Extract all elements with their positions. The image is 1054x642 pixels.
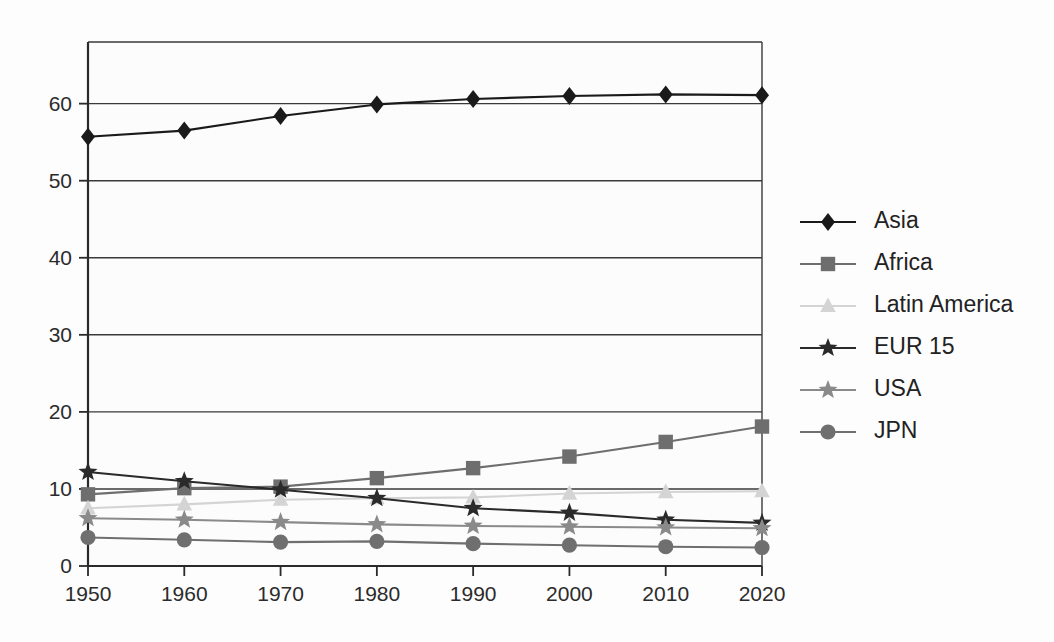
data-point-marker: [659, 435, 673, 449]
data-point-marker: [273, 535, 288, 550]
y-tick-label: 0: [60, 554, 72, 577]
x-tick-label: 1970: [257, 582, 304, 605]
legend-item-jpn[interactable]: JPN: [800, 417, 917, 443]
data-point-marker: [562, 538, 577, 553]
data-point-marker: [80, 530, 95, 545]
legend-item-eur-15[interactable]: EUR 15: [800, 333, 955, 359]
legend-item-asia[interactable]: Asia: [800, 207, 919, 233]
data-point-marker: [177, 532, 192, 547]
legend-item-usa[interactable]: USA: [800, 375, 922, 401]
legend-label: Africa: [874, 249, 933, 275]
data-point-marker: [562, 449, 576, 463]
data-point-marker: [818, 338, 837, 356]
legend-label: USA: [874, 375, 922, 401]
x-tick-label: 1990: [450, 582, 497, 605]
x-tick-label: 2010: [642, 582, 689, 605]
legend-item-africa[interactable]: Africa: [800, 249, 933, 275]
data-point-marker: [370, 471, 384, 485]
y-axis-ticks: 0102030405060: [49, 92, 88, 577]
data-point-marker: [658, 539, 673, 554]
y-tick-label: 20: [49, 400, 72, 423]
chart-legend: AsiaAfricaLatin AmericaEUR 15USAJPN: [800, 207, 1014, 443]
x-tick-label: 2020: [739, 582, 786, 605]
x-tick-label: 2000: [546, 582, 593, 605]
y-tick-label: 50: [49, 169, 72, 192]
data-point-marker: [754, 540, 769, 555]
data-point-marker: [821, 257, 835, 271]
data-point-marker: [820, 424, 835, 439]
data-point-marker: [81, 487, 95, 501]
x-tick-label: 1950: [65, 582, 112, 605]
data-point-marker: [821, 213, 835, 231]
x-tick-label: 1960: [161, 582, 208, 605]
y-tick-label: 10: [49, 477, 72, 500]
data-point-marker: [755, 419, 769, 433]
y-tick-label: 30: [49, 323, 72, 346]
legend-label: EUR 15: [874, 333, 955, 359]
data-point-marker: [369, 534, 384, 549]
x-tick-label: 1980: [353, 582, 400, 605]
y-tick-label: 60: [49, 92, 72, 115]
legend-label: Latin America: [874, 291, 1014, 317]
data-point-marker: [466, 461, 480, 475]
data-point-marker: [466, 536, 481, 551]
data-point-marker: [818, 380, 837, 398]
line-chart: 0102030405060 19501960197019801990200020…: [0, 0, 1054, 642]
x-axis-ticks: 19501960197019801990200020102020: [65, 566, 786, 605]
data-point-marker: [820, 298, 836, 313]
legend-label: Asia: [874, 207, 919, 233]
legend-item-latin-america[interactable]: Latin America: [800, 291, 1014, 317]
legend-label: JPN: [874, 417, 917, 443]
chart-figure: 0102030405060 19501960197019801990200020…: [0, 0, 1054, 642]
y-tick-label: 40: [49, 246, 72, 269]
